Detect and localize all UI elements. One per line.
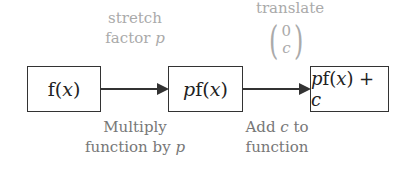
label-add-c: Add c to function — [232, 117, 322, 157]
right-paren-icon: ) — [294, 20, 303, 60]
label-translate-line1: translate — [240, 0, 340, 16]
vector-x: 0 — [282, 23, 292, 40]
left-paren-icon: ( — [269, 20, 278, 60]
translation-vector: ( 0 c ) — [266, 20, 307, 60]
label-translate: translate — [240, 0, 340, 16]
label-multiply-line2: function by p — [70, 137, 200, 157]
vector-column: 0 c — [282, 23, 292, 57]
label-multiply: Multiply function by p — [70, 117, 200, 157]
box-f-of-x: f(x) — [27, 66, 101, 112]
label-multiply-line1: Multiply — [70, 117, 200, 137]
label-stretch-factor: stretch factor p — [85, 8, 185, 48]
label-stretch-line2: factor p — [85, 28, 185, 48]
box-pf-of-x-text: pf(x) — [183, 78, 228, 100]
label-stretch-line1: stretch — [85, 8, 185, 28]
box-f-of-x-text: f(x) — [48, 78, 81, 100]
vector-y: c — [282, 40, 290, 57]
label-add-c-line1: Add c to — [232, 117, 322, 137]
arrow-translate — [243, 88, 309, 90]
arrow-stretch — [101, 88, 167, 90]
box-pf-of-x-plus-c: pf(x) + c — [310, 66, 389, 112]
label-add-c-line2: function — [232, 137, 322, 157]
box-pf-of-x-plus-c-text: pf(x) + c — [311, 68, 388, 110]
box-pf-of-x: pf(x) — [168, 66, 243, 112]
